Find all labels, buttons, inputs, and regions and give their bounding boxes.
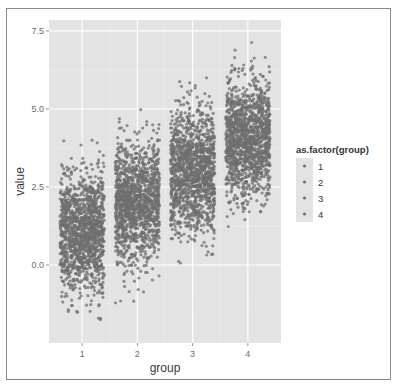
legend-point-icon bbox=[303, 196, 306, 199]
y-tick-label: 0.0 bbox=[31, 260, 44, 270]
legend-point-icon bbox=[303, 164, 306, 167]
legend-title: as.factor(group) bbox=[296, 144, 369, 155]
x-tick-label: 2 bbox=[135, 349, 140, 359]
jitter-plot: 0.02.55.07.5 1234 group value as.factor(… bbox=[0, 0, 397, 389]
legend-point-icon bbox=[303, 212, 306, 215]
x-tick-label: 3 bbox=[190, 349, 195, 359]
legend-label: 4 bbox=[318, 209, 323, 220]
x-axis-title: group bbox=[150, 361, 181, 375]
y-tick-label: 2.5 bbox=[31, 182, 44, 192]
legend: as.factor(group) 1234 bbox=[296, 144, 369, 222]
y-tick-label: 7.5 bbox=[31, 26, 44, 36]
legend-label: 2 bbox=[318, 177, 323, 188]
legend-point-icon bbox=[303, 180, 306, 183]
y-axis: 0.02.55.07.5 bbox=[31, 26, 49, 270]
x-axis: 1234 bbox=[80, 343, 251, 359]
y-tick-label: 5.0 bbox=[31, 104, 44, 114]
legend-label: 3 bbox=[318, 193, 323, 204]
x-tick-label: 1 bbox=[80, 349, 85, 359]
y-axis-title: value bbox=[13, 167, 27, 196]
legend-label: 1 bbox=[318, 161, 323, 172]
x-tick-label: 4 bbox=[245, 349, 250, 359]
